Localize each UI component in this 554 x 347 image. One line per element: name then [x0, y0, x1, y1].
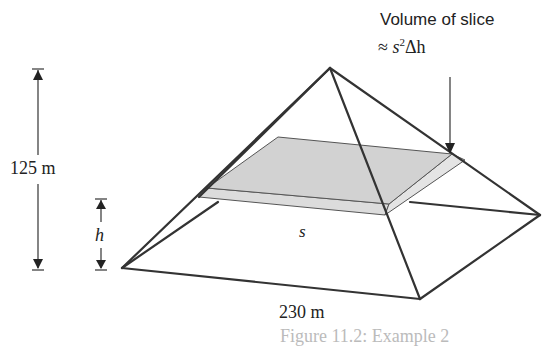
arrow-down-icon	[33, 259, 43, 269]
callout-title: Volume of slice	[380, 10, 494, 30]
h-label: h	[95, 225, 104, 246]
arrow-up-icon	[33, 70, 43, 80]
h-arrow-up-icon	[96, 200, 106, 209]
base-label: 230 m	[279, 302, 325, 323]
edge-back-left-lower	[122, 202, 218, 268]
formula-delta-h: Δh	[405, 37, 426, 57]
callout-formula: ≈ s2Δh	[378, 36, 425, 58]
base-front-left	[122, 268, 420, 299]
h-arrow-down-icon	[96, 260, 106, 269]
figure-caption: Figure 11.2: Example 2	[280, 326, 449, 347]
approx-symbol: ≈	[378, 37, 392, 57]
s-label: s	[299, 222, 306, 242]
height-label: 125 m	[10, 158, 56, 179]
base-back-right	[410, 202, 540, 215]
base-front-right	[420, 215, 540, 299]
